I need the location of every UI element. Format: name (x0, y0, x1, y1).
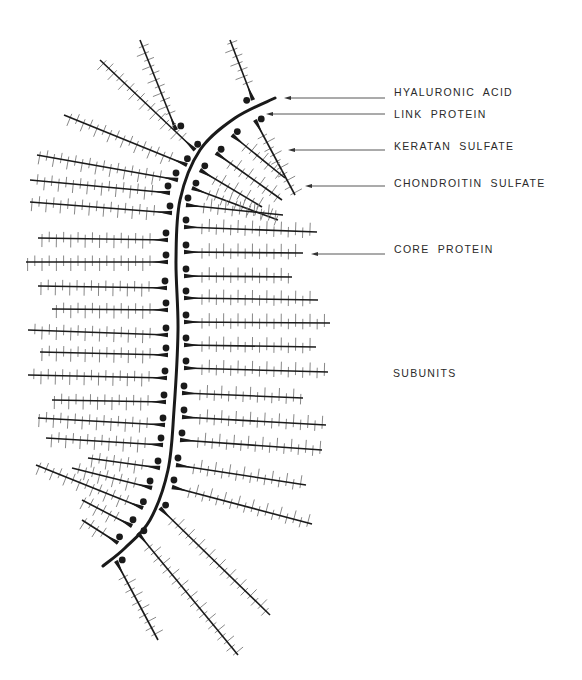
arrowhead-icon (284, 96, 291, 100)
link-protein-dot (183, 288, 190, 295)
subunit (88, 453, 161, 473)
link-protein-dot (162, 278, 169, 285)
link-protein-dot (163, 325, 170, 332)
link-protein-dot (183, 358, 190, 365)
link-protein-dot (165, 183, 172, 190)
link-protein-dot (163, 345, 170, 352)
subunit (175, 455, 306, 490)
link-protein-dot (162, 502, 169, 509)
label-chondroitin-sulfate: CHONDROITIN SULFATE (394, 177, 546, 189)
link-protein-dot (140, 498, 147, 505)
subunit (72, 463, 153, 490)
link-protein-dot (183, 266, 190, 273)
subunit (136, 527, 243, 655)
subunit (30, 174, 171, 199)
subunit (181, 383, 303, 405)
subunit (38, 278, 168, 297)
subunit (179, 430, 322, 456)
link-protein-dot (183, 242, 190, 249)
subunit (114, 557, 163, 640)
link-protein-dot (160, 415, 167, 422)
subunit (183, 335, 316, 354)
label-link-protein: LINK PROTEIN (394, 108, 487, 120)
link-protein-dot (177, 123, 184, 130)
label-keratan-sulfate: KERATAN SULFATE (394, 140, 514, 152)
link-protein-dot (218, 146, 225, 153)
link-protein-dot (116, 533, 123, 540)
subunit (97, 60, 201, 152)
link-protein-dot (173, 170, 180, 177)
link-protein-dot (201, 162, 208, 169)
proteoglycan-aggregate-diagram (0, 0, 582, 680)
link-protein-dot (258, 116, 265, 123)
subunit (38, 412, 166, 433)
subunit (183, 217, 317, 238)
subunit (38, 230, 169, 249)
link-protein-dot (161, 392, 168, 399)
link-protein-dot (194, 141, 201, 148)
link-protein-dot (183, 217, 190, 224)
link-protein-dot (155, 458, 162, 465)
subunit (183, 312, 330, 330)
subunit (37, 150, 179, 184)
link-protein-dot (179, 430, 186, 437)
label-core-protein: CORE PROTEIN (394, 243, 494, 255)
link-protein-dot (183, 312, 190, 319)
link-protein-dot (243, 97, 250, 104)
link-protein-dot (234, 128, 241, 135)
subunit (183, 288, 318, 307)
subunit (181, 407, 326, 431)
label-arrows-group (266, 96, 385, 256)
label-hyaluronic-acid: HYALURONIC ACID (394, 86, 513, 98)
link-protein-dot (175, 455, 182, 462)
link-protein-dot (163, 300, 170, 307)
subunit (30, 196, 173, 220)
subunit (183, 358, 328, 379)
label-subunits: SUBUNITS (393, 367, 457, 379)
link-protein-dot (171, 477, 178, 484)
subunit (40, 345, 169, 364)
subunit (199, 162, 263, 208)
link-protein-dot (181, 383, 188, 390)
subunit (52, 392, 167, 411)
subunit (225, 40, 255, 104)
subunit (158, 502, 270, 616)
link-protein-dot (119, 557, 126, 564)
subunit (80, 518, 123, 545)
link-protein-dot (130, 516, 137, 523)
link-protein-dot (167, 203, 174, 210)
link-protein-dot (163, 252, 170, 259)
arrowhead-icon (305, 184, 312, 188)
arrowhead-icon (288, 148, 295, 152)
subunit (191, 180, 278, 226)
link-protein-dot (158, 435, 165, 442)
subunit (185, 195, 283, 221)
subunit (183, 266, 292, 284)
subunit (28, 368, 168, 387)
arrowhead-icon (311, 252, 318, 256)
subunit (46, 432, 164, 452)
subunit (28, 324, 169, 343)
link-protein-dot (184, 155, 191, 162)
subunit (52, 300, 169, 319)
subunit (171, 477, 312, 528)
link-protein-dot (185, 195, 192, 202)
link-protein-dot (163, 230, 170, 237)
link-protein-dot (147, 478, 154, 485)
link-protein-dot (181, 407, 188, 414)
subunit (26, 252, 169, 271)
arrowhead-icon (266, 112, 273, 116)
link-protein-dot (183, 335, 190, 342)
link-protein-dot (162, 368, 169, 375)
link-protein-dot (193, 180, 200, 187)
subunit (183, 242, 303, 260)
